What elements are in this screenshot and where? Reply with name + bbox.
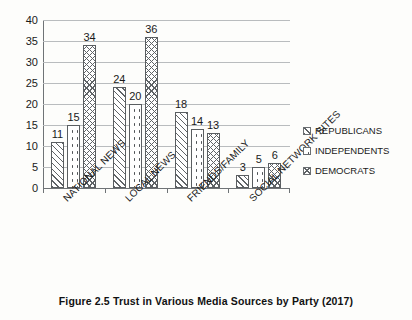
legend-swatch-icon <box>303 147 311 155</box>
bar-value-label: 20 <box>124 91 147 102</box>
x-tick <box>105 188 106 193</box>
legend-swatch-icon <box>303 167 311 175</box>
bar[interactable] <box>51 142 64 188</box>
figure-container: 0510152025303540 111534242036181413356 N… <box>0 0 412 320</box>
bar[interactable] <box>236 175 249 188</box>
bar[interactable] <box>129 104 142 188</box>
y-tick-label-10: 10 <box>12 141 38 152</box>
x-tick <box>167 188 168 193</box>
bar-group: 242036 <box>113 20 158 188</box>
bar-group: 181413 <box>175 20 220 188</box>
bar-value-label: 13 <box>202 120 225 131</box>
bar-value-label: 15 <box>62 112 85 123</box>
legend-swatch-icon <box>303 127 311 135</box>
bar-value-label: 24 <box>108 74 131 85</box>
legend-label: REPUBLICANS <box>315 126 382 136</box>
bar-group: 111534 <box>51 20 96 188</box>
y-tick-label-25: 25 <box>12 78 38 89</box>
x-tick <box>228 188 229 193</box>
figure-caption: Figure 2.5 Trust in Various Media Source… <box>0 295 412 307</box>
y-tick-label-30: 30 <box>12 57 38 68</box>
legend-item[interactable]: INDEPENDENTS <box>303 142 411 160</box>
bar-value-label: 34 <box>78 32 101 43</box>
x-tick <box>43 188 44 193</box>
y-tick-label-20: 20 <box>12 99 38 110</box>
y-tick-label-40: 40 <box>12 15 38 26</box>
legend-label: DEMOCRATS <box>315 166 375 176</box>
y-axis-labels: 0510152025303540 <box>8 20 38 188</box>
legend-item[interactable]: REPUBLICANS <box>303 122 411 140</box>
chart-legend: REPUBLICANSINDEPENDENTSDEMOCRATS <box>303 122 411 182</box>
bar-value-label: 18 <box>170 99 193 110</box>
bar-value-label: 36 <box>140 24 163 35</box>
legend-label: INDEPENDENTS <box>315 146 389 156</box>
y-tick-label-5: 5 <box>12 162 38 173</box>
bar-group: 356 <box>236 20 281 188</box>
y-tick-label-35: 35 <box>12 36 38 47</box>
bar-value-label: 11 <box>46 129 69 140</box>
y-tick-label-0: 0 <box>12 183 38 194</box>
y-tick-label-15: 15 <box>12 120 38 131</box>
legend-item[interactable]: DEMOCRATS <box>303 162 411 180</box>
x-tick <box>289 188 290 193</box>
